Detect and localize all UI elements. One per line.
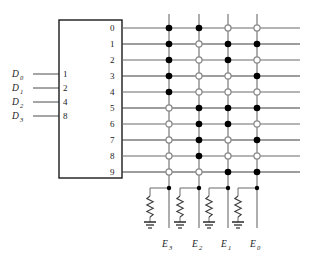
output-num-2: 2 <box>110 55 115 65</box>
junction-r0-c3 <box>254 25 260 31</box>
node-dot-e3 <box>167 186 171 190</box>
input-sub-d3: 3 <box>19 116 24 123</box>
input-sub-d0: 0 <box>20 74 24 81</box>
resistor-e0 <box>235 196 241 217</box>
junction-r4-c0 <box>166 89 173 96</box>
figure-canvas: D 0 D 1 D 2 D 3 1 2 4 8 0 1 2 3 4 5 6 7 … <box>0 0 311 263</box>
matrix-junctions <box>166 25 261 176</box>
junction-r9-c2 <box>225 169 232 176</box>
output-num-1: 1 <box>110 39 115 49</box>
junction-r4-c2 <box>225 89 231 95</box>
output-sub-e2: 2 <box>199 244 203 251</box>
output-num-0: 0 <box>110 23 115 33</box>
junction-r7-c3 <box>254 137 261 144</box>
junction-r4-c1 <box>196 89 202 95</box>
encoder-column-wires <box>169 14 257 228</box>
resistor-e2 <box>177 196 183 217</box>
junction-r6-c3 <box>254 121 260 127</box>
junction-r1-c0 <box>166 41 173 48</box>
junction-r2-c1 <box>196 57 202 63</box>
junction-r0-c2 <box>225 25 231 31</box>
junction-r7-c1 <box>196 137 203 144</box>
resistor-e3 <box>147 196 153 217</box>
weight-4: 4 <box>63 97 68 107</box>
output-num-8: 8 <box>110 151 115 161</box>
junction-r8-c1 <box>196 153 203 160</box>
weight-2: 2 <box>63 83 68 93</box>
output-sub-e3: 3 <box>168 244 173 251</box>
junction-r5-c0 <box>166 105 172 111</box>
junction-r9-c1 <box>196 169 202 175</box>
input-label-d3: D <box>11 111 19 121</box>
output-num-4: 4 <box>110 87 115 97</box>
decoder-output-row-wires <box>122 28 300 172</box>
resistor-e1 <box>206 196 212 217</box>
output-num-6: 6 <box>110 119 115 129</box>
junction-r5-c3 <box>254 105 261 112</box>
output-label-e0: E <box>249 239 256 249</box>
input-label-d2: D <box>11 97 19 107</box>
junction-r6-c0 <box>166 121 172 127</box>
junction-r3-c3 <box>254 73 261 80</box>
junction-r1-c3 <box>254 41 261 48</box>
junction-r0-c1 <box>196 25 203 32</box>
junction-r5-c2 <box>225 105 232 112</box>
pulldown-network-e1 <box>203 186 230 228</box>
output-sub-e1: 1 <box>228 244 231 251</box>
junction-r2-c3 <box>254 57 260 63</box>
node-dot-e2 <box>197 186 201 190</box>
junction-r3-c0 <box>166 73 173 80</box>
output-label-e3: E <box>161 239 168 249</box>
junction-r3-c1 <box>196 73 202 79</box>
output-label-e2: E <box>191 239 198 249</box>
output-num-3: 3 <box>110 71 115 81</box>
junction-r2-c2 <box>225 57 232 64</box>
pulldown-network-e2 <box>174 186 201 228</box>
junction-r5-c1 <box>196 105 203 112</box>
node-dot-e1 <box>226 186 230 190</box>
pulldown-network-e3 <box>144 186 171 228</box>
junction-r0-c0 <box>166 25 173 32</box>
junction-r8-c0 <box>166 153 172 159</box>
output-sub-e0: 0 <box>257 244 261 251</box>
encoder-output-labels: E 3 E 2 E 1 E 0 <box>161 239 261 251</box>
junction-r7-c0 <box>166 137 172 143</box>
pulldown-network-e0 <box>232 186 259 228</box>
junction-r8-c3 <box>254 153 260 159</box>
input-sub-d1: 1 <box>20 88 23 95</box>
junction-r3-c2 <box>225 73 231 79</box>
junction-r1-c1 <box>196 41 202 47</box>
junction-r7-c2 <box>225 137 231 143</box>
node-dot-e0 <box>255 186 259 190</box>
junction-r4-c3 <box>254 89 260 95</box>
input-label-d0: D <box>11 69 19 79</box>
weight-1: 1 <box>63 69 68 79</box>
output-num-7: 7 <box>110 135 115 145</box>
junction-r6-c2 <box>225 121 232 128</box>
output-num-9: 9 <box>110 167 115 177</box>
output-label-e1: E <box>220 239 227 249</box>
input-sub-d2: 2 <box>20 102 24 109</box>
junction-r6-c1 <box>196 121 203 128</box>
junction-r9-c3 <box>254 169 261 176</box>
decoder-input-labels: D 0 D 1 D 2 D 3 <box>11 69 24 123</box>
input-label-d1: D <box>11 83 19 93</box>
junction-r9-c0 <box>166 169 172 175</box>
junction-r1-c2 <box>225 41 232 48</box>
weight-8: 8 <box>63 111 68 121</box>
junction-r2-c0 <box>166 57 173 64</box>
junction-r8-c2 <box>225 153 231 159</box>
output-num-5: 5 <box>110 103 115 113</box>
decoder-input-wires <box>33 74 59 116</box>
